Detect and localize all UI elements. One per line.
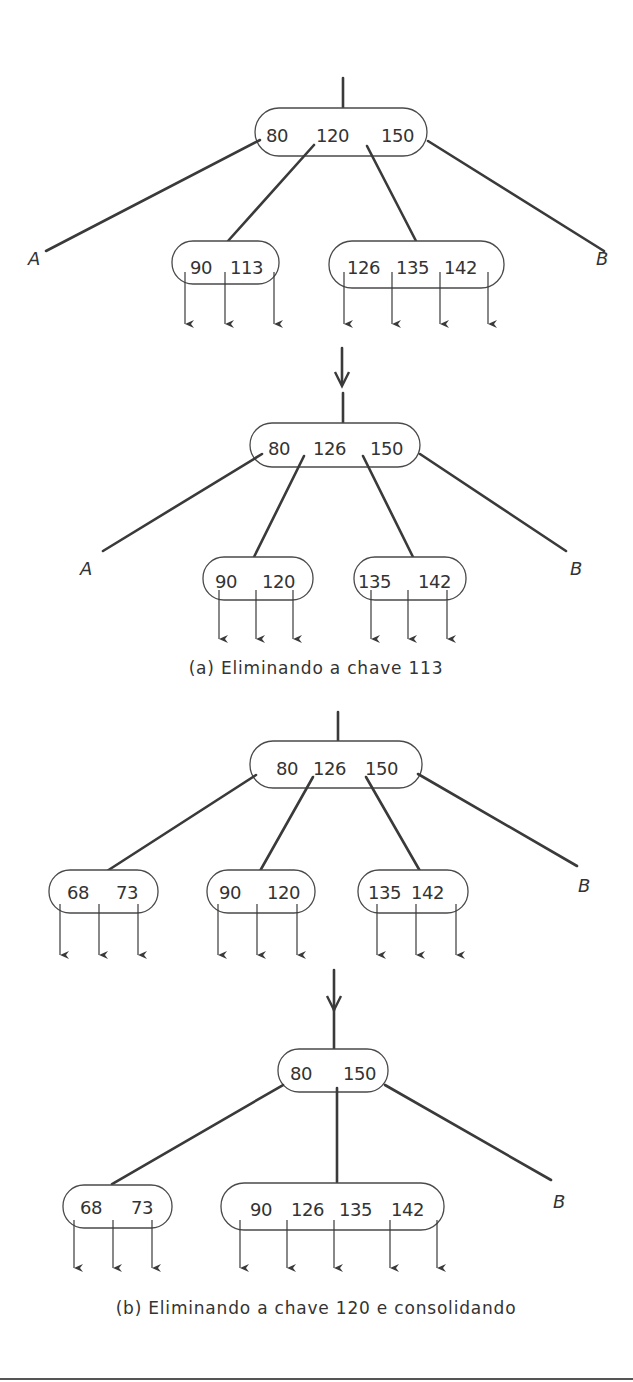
child-key: 142: [444, 257, 477, 278]
root-key: 80: [266, 125, 288, 146]
edge-to-child: [260, 777, 313, 871]
edge-to-B: [428, 141, 604, 251]
part-a-before-tree: 80 120 150 A B 90 113 126 135 142: [27, 78, 608, 324]
child-key: 135: [339, 1199, 372, 1220]
edge-to-child: [107, 775, 256, 871]
child-key: 135: [358, 571, 391, 592]
transition-arrow-b: [327, 970, 341, 1049]
child-key: 68: [80, 1197, 102, 1218]
part-b-after-tree: 80 150 B 68 73 90 126 135 142: [63, 1049, 565, 1268]
child-key: 120: [267, 882, 300, 903]
child-key: 90: [190, 257, 212, 278]
subtree-label-A: A: [27, 248, 40, 269]
child-key: 142: [391, 1199, 424, 1220]
root-key: 150: [381, 125, 414, 146]
child-key: 120: [262, 571, 295, 592]
transition-arrow-a: [335, 348, 349, 386]
child-node: [49, 870, 158, 913]
edge-to-A: [46, 140, 260, 251]
child-key: 68: [67, 882, 89, 903]
child-key: 113: [230, 257, 263, 278]
root-key: 150: [370, 438, 403, 459]
root-key: 80: [268, 438, 290, 459]
edge-to-A: [103, 454, 262, 551]
root-key: 80: [276, 758, 298, 779]
edge-to-child: [363, 456, 413, 557]
caption-b: (b) Eliminando a chave 120 e consolidand…: [116, 1298, 517, 1318]
subtree-label-B: B: [596, 248, 608, 269]
edge-to-child: [367, 146, 416, 241]
child-key: 135: [396, 257, 429, 278]
edge-to-B: [420, 454, 566, 551]
b-tree-deletion-diagram: 80 120 150 A B 90 113 126 135 142 80 126…: [0, 0, 633, 1382]
edge-to-B: [418, 774, 577, 866]
edge-to-B: [385, 1085, 551, 1180]
edge-to-child: [254, 456, 304, 557]
root-key: 80: [290, 1063, 312, 1084]
root-key: 120: [316, 125, 349, 146]
subtree-label-B: B: [578, 875, 590, 896]
child-key: 126: [291, 1199, 324, 1220]
part-b-before-tree: 80 126 150 B 68 73 90 120 135 142: [49, 712, 590, 955]
child-key: 90: [219, 882, 241, 903]
subtree-label-B: B: [553, 1191, 565, 1212]
root-key: 126: [313, 438, 346, 459]
child-key: 90: [250, 1199, 272, 1220]
edge-to-child: [366, 777, 420, 871]
subtree-label-B: B: [570, 558, 582, 579]
child-key: 90: [215, 571, 237, 592]
subtree-label-A: A: [79, 558, 92, 579]
child-key: 142: [418, 571, 451, 592]
edge-to-child: [228, 145, 314, 241]
root-key: 150: [365, 758, 398, 779]
root-key: 150: [343, 1063, 376, 1084]
child-key: 135: [368, 882, 401, 903]
child-key: 73: [131, 1197, 153, 1218]
root-key: 126: [313, 758, 346, 779]
child-key: 142: [411, 882, 444, 903]
edge-to-child: [112, 1085, 283, 1184]
caption-a: (a) Eliminando a chave 113: [189, 658, 444, 678]
child-key: 73: [116, 882, 138, 903]
child-key: 126: [347, 257, 380, 278]
part-a-after-tree: 80 126 150 A B 90 120 135 142: [79, 393, 582, 639]
